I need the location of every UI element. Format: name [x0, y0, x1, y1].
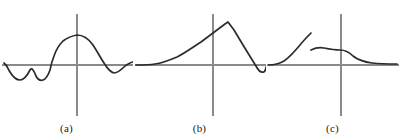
panel-c-curve-left — [268, 33, 311, 65]
panel-b: (b) — [133, 0, 266, 136]
panel-a-caption: (a) — [0, 122, 133, 134]
panel-b-plot — [133, 0, 266, 118]
panel-a-curve — [4, 35, 133, 80]
panel-c: (c) — [266, 0, 399, 136]
figure-container: (a) (b) (c) — [0, 0, 399, 136]
panel-a-plot — [0, 0, 133, 118]
panel-c-caption: (c) — [266, 122, 399, 134]
panel-c-curve-right — [311, 48, 397, 64]
panel-c-plot — [266, 0, 399, 118]
panel-b-caption: (b) — [133, 122, 266, 134]
panel-a: (a) — [0, 0, 133, 136]
